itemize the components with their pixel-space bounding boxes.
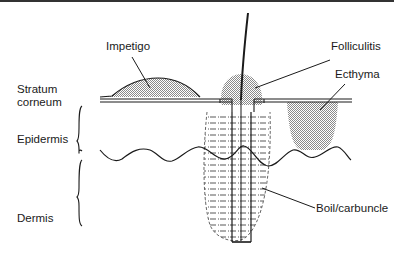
label-epidermis: Epidermis [17, 133, 68, 146]
skin-infection-diagram [0, 0, 401, 254]
label-ecthyma: Ecthyma [335, 68, 380, 81]
label-folliculitis: Folliculitis [331, 40, 381, 53]
ecthyma-region [287, 102, 338, 150]
boil-region [200, 100, 280, 250]
label-impetigo: Impetigo [106, 40, 150, 53]
dermis-bracket [77, 160, 82, 226]
label-boil-carbuncle: Boil/carbuncle [316, 202, 388, 215]
epidermis-bracket [77, 106, 82, 153]
label-dermis: Dermis [17, 212, 53, 225]
label-stratum-corneum-line2: corneum [17, 96, 62, 109]
label-stratum-corneum-line1: Stratum [17, 83, 57, 96]
